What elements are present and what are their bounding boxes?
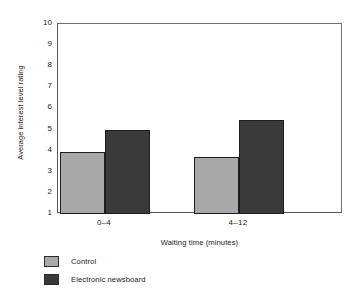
y-axis-tick-label: 2 <box>26 188 52 196</box>
y-axis-title: Average interest level rating <box>16 23 25 203</box>
bar <box>239 120 284 214</box>
y-axis-tick-label: 1 <box>26 209 52 217</box>
y-axis-tick-label: 3 <box>26 167 52 175</box>
legend-label: Control <box>71 257 96 266</box>
bar <box>105 130 150 214</box>
x-axis-tick-label: 4–12 <box>193 218 283 227</box>
x-axis-title: Waiting time (minutes) <box>57 238 342 247</box>
legend-item: Electronic newsboard <box>44 270 146 288</box>
chart-legend: ControlElectronic newsboard <box>44 252 146 288</box>
legend-label: Electronic newsboard <box>71 275 146 284</box>
bar <box>194 157 239 214</box>
y-axis-tick-label: 4 <box>26 146 52 154</box>
bar-chart-figure: Average interest level rating 1234567891… <box>0 0 359 296</box>
y-axis-tick-label: 10 <box>26 19 52 27</box>
y-axis-tick-label: 7 <box>26 82 52 90</box>
legend-item: Control <box>44 252 146 270</box>
plot-area <box>57 23 342 213</box>
y-axis-tick-label: 5 <box>26 125 52 133</box>
legend-swatch <box>44 274 59 285</box>
y-axis-tick-label: 6 <box>26 103 52 111</box>
x-axis-tick-label: 0–4 <box>59 218 149 227</box>
y-axis-tick-label: 9 <box>26 40 52 48</box>
bar <box>60 152 105 214</box>
legend-swatch <box>44 256 59 267</box>
y-axis-tick-label: 8 <box>26 61 52 69</box>
